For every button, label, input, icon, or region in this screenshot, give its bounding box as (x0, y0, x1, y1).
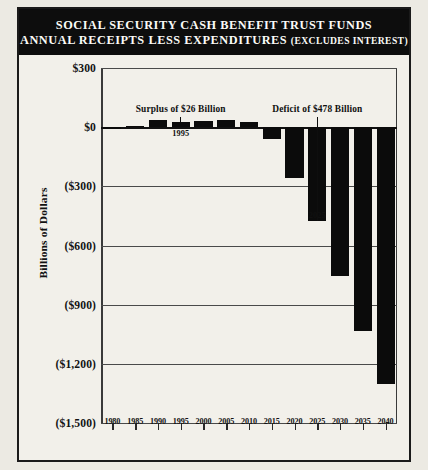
y-tick-label: ($1,200) (22, 357, 96, 370)
y-tick-label: ($900) (22, 298, 96, 311)
x-tick-label: 2020 (287, 417, 303, 426)
y-axis-tick-labels: $300$0($300)($600)($900)($1,200)($1,500) (19, 55, 96, 460)
gridline--600 (101, 246, 397, 247)
point-label-2025: 2025 (309, 211, 326, 220)
x-tick-label: 2010 (241, 417, 257, 426)
chart-title-line-2-main: ANNUAL RECEIPTS LESS EXPENDITURES (20, 33, 291, 47)
x-tick-label: 2035 (355, 417, 371, 426)
x-tick-label: 1980 (104, 417, 120, 426)
x-tick-label: 2000 (195, 417, 211, 426)
bar-2010 (240, 122, 258, 127)
chart-title-line-1: SOCIAL SECURITY CASH BENEFIT TRUST FUNDS (56, 18, 372, 33)
gridline-0 (101, 127, 397, 129)
bar-2030 (331, 127, 349, 276)
bar-2000 (194, 121, 212, 127)
y-tick-label: ($600) (22, 239, 96, 252)
annotation-pointer (317, 117, 319, 221)
annotation-label: Surplus of $26 Billion (136, 104, 226, 114)
bar-2015 (263, 127, 281, 139)
bar-1985 (126, 126, 144, 128)
x-tick-label: 1985 (127, 417, 143, 426)
bar-1980 (103, 127, 121, 129)
gridline--900 (101, 305, 397, 306)
y-tick-label: $300 (22, 62, 96, 75)
bar-2040 (377, 127, 395, 383)
annotation-label: Deficit of $478 Billion (272, 104, 362, 114)
x-tick-label: 2015 (264, 417, 280, 426)
chart-title-banner: SOCIAL SECURITY CASH BENEFIT TRUST FUNDS… (19, 9, 409, 55)
point-label-1995: 1995 (172, 129, 189, 138)
plot-axes: 1980198519901995200020052010201520202025… (101, 68, 397, 423)
bar-2005 (217, 120, 235, 127)
y-tick-label: ($1,500) (22, 417, 96, 430)
y-tick-label: ($300) (22, 180, 96, 193)
x-tick-label: 2040 (378, 417, 394, 426)
gridline--1200 (101, 364, 397, 365)
bar-2035 (354, 127, 372, 331)
gridline-300 (101, 68, 397, 69)
bar-1995 (172, 122, 190, 127)
chart-page: SOCIAL SECURITY CASH BENEFIT TRUST FUNDS… (0, 0, 428, 470)
annotation-pointer (180, 117, 182, 122)
x-tick-label: 2005 (218, 417, 234, 426)
x-tick-label: 2025 (309, 417, 325, 426)
plot-area: Billions of Dollars $300$0($300)($600)($… (19, 55, 413, 460)
x-tick-label: 2030 (332, 417, 348, 426)
x-tick-label: 1995 (173, 417, 189, 426)
chart-title-line-2-paren: (EXCLUDES INTEREST) (291, 35, 408, 46)
chart-title-line-2: ANNUAL RECEIPTS LESS EXPENDITURES (EXCLU… (20, 33, 408, 48)
x-tick-label: 1990 (150, 417, 166, 426)
gridline--300 (101, 186, 397, 187)
chart-figure: SOCIAL SECURITY CASH BENEFIT TRUST FUNDS… (17, 7, 411, 462)
y-tick-label: $0 (22, 121, 96, 134)
bar-1990 (149, 120, 167, 127)
bar-2020 (285, 127, 303, 178)
